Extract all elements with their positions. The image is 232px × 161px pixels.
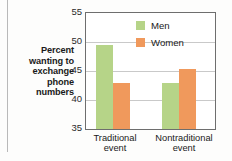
bar-men-traditional	[96, 45, 113, 129]
bar-men-nontraditional	[162, 83, 179, 129]
y-axis-title-line-1: Percent	[4, 45, 74, 56]
bar-women-traditional	[113, 83, 130, 129]
x-category-label-nontraditional-line-2: event	[147, 143, 221, 153]
y-axis-title-line-4: phone	[4, 77, 74, 88]
y-tick-label-50: 50	[56, 36, 82, 46]
legend-item-men: Men	[136, 17, 210, 34]
bar-women-nontraditional	[179, 69, 196, 129]
chart-figure: Percent wanting to exchange phone number…	[0, 0, 232, 161]
x-category-label-traditional-line-1: Traditional	[82, 133, 148, 143]
x-category-label-traditional-line-2: event	[82, 143, 148, 153]
legend-swatch-women-icon	[136, 38, 145, 47]
y-tick-label-45: 45	[56, 65, 82, 75]
legend-label-women: Women	[151, 37, 184, 48]
y-tick-label-35: 35	[56, 123, 82, 133]
legend-swatch-men-icon	[136, 21, 145, 30]
legend-item-women: Women	[136, 34, 210, 51]
y-tick-label-40: 40	[56, 94, 82, 104]
y-tick-label-55: 55	[56, 7, 82, 17]
x-category-label-nontraditional: Nontraditional event	[147, 133, 221, 154]
x-category-label-traditional: Traditional event	[82, 133, 148, 154]
legend: Men Women	[136, 17, 210, 51]
x-category-label-nontraditional-line-1: Nontraditional	[147, 133, 221, 143]
legend-label-men: Men	[151, 20, 170, 31]
